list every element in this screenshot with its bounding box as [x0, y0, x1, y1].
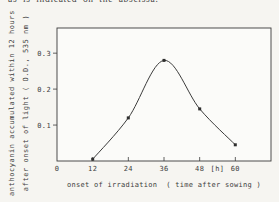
data-point-marker	[91, 158, 94, 161]
x-tick-label: 48	[195, 165, 204, 173]
x-tick-label: 60	[231, 165, 240, 173]
y-tick-label: 0.2	[37, 86, 51, 94]
data-point-marker	[127, 116, 130, 119]
data-point-marker	[198, 107, 201, 110]
scanned-figure-page: as is indicated on the abscissa. anthocy…	[0, 0, 279, 202]
x-tick-label: 24	[124, 165, 133, 173]
plot-frame	[57, 28, 271, 161]
data-point-marker	[234, 143, 237, 146]
x-tick-label: 0	[55, 165, 60, 173]
x-tick-label: 36	[159, 165, 168, 173]
y-tick-label: 0.3	[37, 50, 51, 58]
x-tick-label: 12	[88, 165, 97, 173]
line-chart: 0.10.20.301224364860[h]	[0, 0, 279, 202]
x-axis-label: onset of irradiation ( time after sowing…	[57, 181, 271, 189]
data-point-marker	[163, 59, 166, 62]
x-unit-label: [h]	[211, 165, 225, 173]
y-tick-label: 0.1	[37, 122, 51, 130]
